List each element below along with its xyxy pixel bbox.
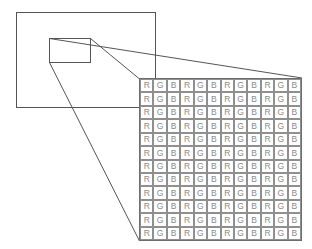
filter-cell-b: B [167,133,180,146]
filter-cell-label: G [197,189,204,198]
filter-cell-label: B [171,149,177,158]
filter-cell-label: G [237,216,244,225]
filter-cell-label: R [184,189,190,198]
filter-cell-g: G [274,160,287,173]
diagram-root: RGBRGBRGBRGBRGBRGBRGBRGBRGBRGBRGBRGBRGBR… [0,0,312,249]
filter-cell-label: B [291,202,297,211]
filter-cell-g: G [274,146,287,159]
filter-cell-g: G [234,227,247,240]
filter-cell-label: G [157,229,164,238]
filter-cell-label: B [291,81,297,90]
filter-cell-label: R [144,108,150,117]
filter-cell-label: G [157,202,164,211]
filter-cell-label: B [291,189,297,198]
callout-line-bottom [50,63,140,242]
filter-cell-label: G [237,175,244,184]
filter-cell-r: R [180,160,193,173]
filter-cell-g: G [234,200,247,213]
filter-cell-r: R [140,106,153,119]
filter-cell-label: G [157,149,164,158]
filter-cell-g: G [153,173,166,186]
filter-cell-label: R [264,175,270,184]
filter-cell-label: G [197,162,204,171]
filter-cell-r: R [140,119,153,132]
filter-cell-r: R [221,106,234,119]
filter-cell-label: B [211,175,217,184]
filter-cell-b: B [247,160,260,173]
filter-cell-label: B [251,189,257,198]
filter-cell-label: G [197,149,204,158]
filter-cell-b: B [247,106,260,119]
filter-cell-label: R [264,122,270,131]
filter-cell-b: B [288,92,301,105]
filter-cell-r: R [140,92,153,105]
filter-cell-g: G [153,133,166,146]
filter-cell-g: G [234,133,247,146]
filter-cell-b: B [167,119,180,132]
filter-cell-label: G [237,81,244,90]
filter-cell-r: R [221,173,234,186]
filter-cell-label: G [278,149,285,158]
filter-cell-label: B [171,202,177,211]
filter-cell-g: G [234,146,247,159]
bayer-filter-grid: RGBRGBRGBRGBRGBRGBRGBRGBRGBRGBRGBRGBRGBR… [139,78,302,241]
filter-cell-label: R [224,122,230,131]
filter-cell-b: B [288,227,301,240]
filter-cell-g: G [274,227,287,240]
filter-cell-label: B [291,162,297,171]
filter-cell-label: R [264,135,270,144]
filter-cell-g: G [153,227,166,240]
filter-cell-label: B [171,229,177,238]
filter-cell-g: G [153,106,166,119]
filter-cell-label: R [264,189,270,198]
filter-cell-b: B [207,213,220,226]
filter-cell-label: G [237,202,244,211]
filter-cell-label: R [184,175,190,184]
filter-cell-g: G [194,173,207,186]
filter-cell-b: B [207,186,220,199]
filter-cell-g: G [194,186,207,199]
filter-cell-r: R [221,79,234,92]
filter-cell-label: R [224,149,230,158]
filter-cell-r: R [261,146,274,159]
filter-cell-r: R [261,106,274,119]
filter-cell-label: R [184,95,190,104]
filter-cell-g: G [274,106,287,119]
filter-cell-g: G [153,160,166,173]
filter-cell-r: R [221,146,234,159]
filter-cell-g: G [234,186,247,199]
filter-cell-label: G [237,135,244,144]
filter-cell-b: B [207,200,220,213]
filter-cell-b: B [247,79,260,92]
filter-cell-r: R [180,227,193,240]
filter-cell-label: G [157,108,164,117]
filter-cell-label: G [197,175,204,184]
filter-cell-b: B [167,173,180,186]
filter-cell-label: B [171,175,177,184]
filter-cell-label: G [197,95,204,104]
filter-cell-label: G [237,108,244,117]
filter-cell-g: G [274,92,287,105]
filter-cell-label: B [251,229,257,238]
filter-cell-label: G [278,95,285,104]
filter-cell-label: B [211,162,217,171]
filter-cell-g: G [153,92,166,105]
filter-cell-label: R [184,108,190,117]
filter-cell-b: B [167,146,180,159]
filter-cell-r: R [180,173,193,186]
filter-cell-label: R [144,81,150,90]
filter-cell-r: R [180,119,193,132]
filter-cell-g: G [194,133,207,146]
filter-cell-r: R [261,160,274,173]
filter-cell-label: G [197,202,204,211]
filter-cell-label: B [251,135,257,144]
filter-cell-label: R [224,81,230,90]
filter-cell-label: G [278,108,285,117]
filter-cell-r: R [261,186,274,199]
filter-cell-r: R [221,200,234,213]
filter-cell-label: B [171,135,177,144]
filter-cell-g: G [153,119,166,132]
filter-cell-r: R [180,133,193,146]
filter-cell-b: B [167,213,180,226]
filter-cell-label: R [184,122,190,131]
